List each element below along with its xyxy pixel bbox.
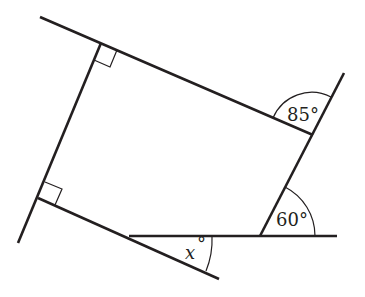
left-line	[18, 43, 101, 243]
geometry-diagram: 85° 60° x °	[0, 0, 365, 297]
angle-label-85: 85°	[287, 104, 319, 125]
bottom-slanted-line	[38, 198, 219, 279]
angle-label-60: 60°	[276, 209, 308, 230]
top-line	[40, 17, 313, 135]
angle-label-x: x	[185, 242, 195, 263]
angle-arc-x	[206, 236, 212, 271]
angle-label-x-degree: °	[197, 233, 206, 254]
